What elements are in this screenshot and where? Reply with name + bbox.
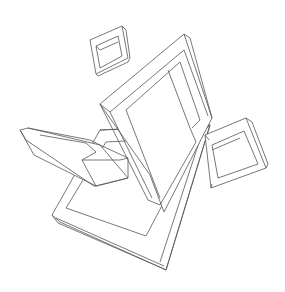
line-drawing-canvas — [0, 0, 285, 292]
right-frame — [205, 118, 268, 188]
interlocking-frames-illustration — [0, 0, 285, 292]
small-frame-top — [90, 26, 130, 76]
